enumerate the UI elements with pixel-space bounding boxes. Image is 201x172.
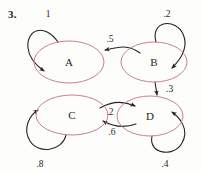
state-diagram: 1 .2 .5 .3 .2 .6 .8 bbox=[0, 0, 201, 172]
transition-b-self: .2 bbox=[155, 9, 185, 68]
state-d-label: D bbox=[146, 110, 154, 122]
state-c-label: C bbox=[68, 109, 75, 121]
transition-b-to-d: .3 bbox=[155, 82, 173, 95]
transition-d-self-path bbox=[152, 112, 185, 152]
transition-d-self: .4 bbox=[152, 112, 185, 169]
state-a-label: A bbox=[65, 56, 73, 68]
state-node-c[interactable]: C bbox=[36, 95, 108, 135]
transition-a-self-path bbox=[28, 30, 58, 71]
state-b-label: B bbox=[150, 56, 157, 68]
state-node-a[interactable]: A bbox=[34, 41, 104, 83]
transition-d-to-c-label: .6 bbox=[108, 127, 115, 137]
transition-b-to-d-path bbox=[155, 82, 157, 95]
transition-c-self: .8 bbox=[27, 110, 66, 169]
transition-b-to-a-label: .5 bbox=[106, 34, 113, 44]
diagram-page: 3. 1 .2 .5 .3 .2 bbox=[0, 0, 201, 172]
transition-b-self-path bbox=[155, 24, 185, 68]
transition-c-self-path bbox=[27, 110, 66, 149]
state-node-d[interactable]: D bbox=[117, 96, 183, 136]
transition-b-to-a: .5 bbox=[105, 34, 140, 53]
transition-b-self-label: .2 bbox=[163, 9, 170, 19]
transition-d-self-label: .4 bbox=[161, 159, 168, 169]
transition-a-self-label: 1 bbox=[46, 9, 51, 19]
transition-b-to-d-label: .3 bbox=[166, 84, 173, 94]
transition-b-to-a-path bbox=[105, 47, 140, 53]
transition-a-self: 1 bbox=[28, 9, 58, 71]
transition-c-self-label: .8 bbox=[36, 159, 43, 169]
